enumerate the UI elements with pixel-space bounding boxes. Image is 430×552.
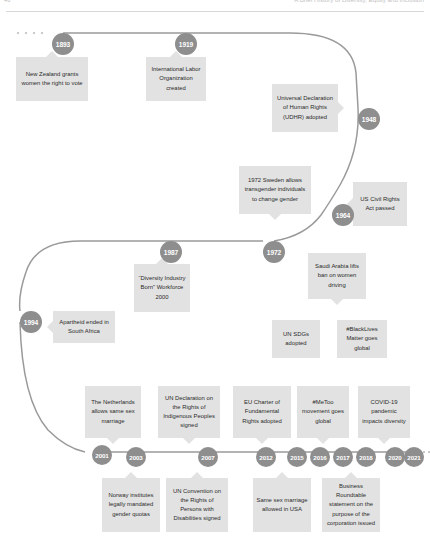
event-card-label: UN Declaration on the Rights of Indigeno…: [161, 394, 217, 431]
leading-dots-icon: [17, 32, 43, 34]
event-card-label: “Diversity Industry Born” Workforce 2000: [137, 274, 187, 301]
year-node-1987[interactable]: 1987: [160, 241, 182, 263]
event-card: EU Charter of Fundamental Rights adopted: [233, 386, 291, 438]
event-card: Same sex marriage allowed in USA: [253, 478, 311, 532]
timeline-infographic: 46 A Brief History of Diversity, Equity …: [0, 0, 430, 552]
event-card-label: EU Charter of Fundamental Rights adopted: [236, 398, 288, 425]
event-card: UN Convention on the Rights of Persons w…: [166, 478, 228, 532]
event-card: UN SDGs adopted: [272, 320, 320, 358]
event-card-label: UN SDGs adopted: [275, 330, 317, 348]
year-node-2012[interactable]: 2012: [256, 447, 276, 467]
year-node-2016[interactable]: 2016: [310, 447, 330, 467]
event-card-label: 1972 Sweden allows transgender individua…: [242, 176, 308, 203]
event-card: New Zealand grants women the right to vo…: [16, 57, 88, 101]
event-card-label: Business Roundtable statement on the pur…: [325, 482, 377, 528]
event-card-label: Same sex marriage allowed in USA: [256, 496, 308, 514]
header-title: A Brief History of Diversity, Equity and…: [294, 0, 424, 3]
event-card: US Civil Rights Act passed: [353, 182, 407, 226]
event-card: The Netherlands allows same sex marriage: [85, 386, 141, 438]
event-card: Universal Declaration of Human Rights (U…: [272, 84, 338, 132]
event-card: International Labor Organization created: [146, 57, 206, 101]
year-node-2015[interactable]: 2015: [287, 447, 307, 467]
event-card: 1972 Sweden allows transgender individua…: [239, 166, 311, 214]
year-node-1994[interactable]: 1994: [20, 311, 42, 333]
year-node-2020[interactable]: 2020: [385, 447, 405, 467]
year-node-1972[interactable]: 1972: [263, 241, 285, 263]
event-card-label: COVID-19 pandemic impacts diversity: [361, 398, 407, 425]
year-node-2017[interactable]: 2017: [333, 447, 353, 467]
event-card-label: #MeToo movement goes global: [300, 398, 346, 425]
event-card-label: International Labor Organization created: [149, 65, 203, 92]
event-card-label: #BlackLives Matter goes global: [340, 325, 384, 352]
event-card-label: UN Convention on the Rights of Persons w…: [169, 487, 225, 524]
year-node-1919[interactable]: 1919: [175, 33, 197, 55]
event-card-label: Norway institutes legally mandated gende…: [105, 491, 157, 518]
event-card-label: New Zealand grants women the right to vo…: [19, 70, 85, 88]
event-card-label: Universal Declaration of Human Rights (U…: [275, 94, 335, 121]
event-card-label: Saudi Arabia lifts ban on women driving: [311, 262, 363, 289]
event-card-label: The Netherlands allows same sex marriage: [88, 398, 138, 425]
year-node-1893[interactable]: 1893: [52, 33, 74, 55]
year-node-2001[interactable]: 2001: [92, 445, 112, 465]
event-card: Business Roundtable statement on the pur…: [322, 478, 380, 532]
year-node-2003[interactable]: 2003: [126, 447, 146, 467]
event-card-label: US Civil Rights Act passed: [356, 195, 404, 213]
event-card: Saudi Arabia lifts ban on women driving: [308, 253, 366, 299]
event-card: #MeToo movement goes global: [297, 386, 349, 438]
header-divider: [6, 11, 424, 12]
event-card: UN Declaration on the Rights of Indigeno…: [158, 386, 220, 438]
year-node-2007[interactable]: 2007: [198, 447, 218, 467]
event-card: COVID-19 pandemic impacts diversity: [358, 386, 410, 438]
event-card: Apartheid ended in South Africa: [53, 311, 115, 343]
event-card: “Diversity Industry Born” Workforce 2000: [134, 264, 190, 312]
year-node-2018[interactable]: 2018: [356, 447, 376, 467]
page-number: 46: [4, 0, 10, 3]
event-card: Norway institutes legally mandated gende…: [102, 478, 160, 532]
event-card-label: Apartheid ended in South Africa: [56, 318, 112, 336]
year-node-1948[interactable]: 1948: [358, 108, 380, 130]
page-header: 46 A Brief History of Diversity, Equity …: [0, 0, 430, 12]
event-card: #BlackLives Matter goes global: [337, 320, 387, 358]
year-node-2021[interactable]: 2021: [404, 447, 424, 467]
year-node-1964[interactable]: 1964: [332, 204, 354, 226]
